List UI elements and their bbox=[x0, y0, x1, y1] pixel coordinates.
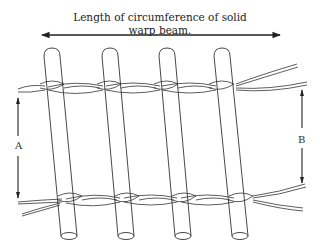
dimension-label-b: B bbox=[298, 134, 305, 145]
rod-2 bbox=[102, 48, 134, 240]
rods bbox=[44, 48, 248, 240]
rod-3 bbox=[159, 48, 191, 240]
dimension-label-a: A bbox=[15, 140, 22, 151]
warp-beam-diagram: Length of circumference of solid warp be… bbox=[0, 0, 320, 250]
rod-1 bbox=[44, 48, 77, 240]
rod-4 bbox=[214, 48, 248, 240]
diagram-drawing bbox=[0, 0, 320, 250]
